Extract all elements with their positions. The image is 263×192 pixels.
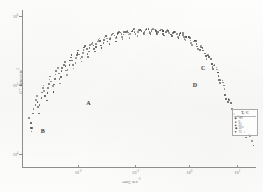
data-point xyxy=(103,42,105,44)
data-point xyxy=(44,95,46,97)
data-point xyxy=(75,57,77,59)
data-point xyxy=(253,145,255,147)
data-point xyxy=(171,35,173,37)
data-point xyxy=(47,92,49,94)
data-point xyxy=(61,67,63,69)
data-point xyxy=(72,64,74,66)
x-tick-mark xyxy=(78,165,79,168)
data-point xyxy=(137,31,139,33)
y-tick-label: 104 xyxy=(4,152,18,158)
data-point xyxy=(50,81,52,83)
legend-title: T, °C xyxy=(234,111,256,117)
data-point xyxy=(37,106,39,108)
legend-rows: ■-20●0▲25◆50▼75 xyxy=(234,117,256,133)
data-point xyxy=(163,35,165,37)
branch-label-d: D xyxy=(193,82,197,88)
data-point xyxy=(109,38,111,40)
data-point xyxy=(53,91,55,93)
data-point xyxy=(41,92,43,94)
data-point xyxy=(133,28,135,30)
data-point xyxy=(135,33,137,35)
data-point xyxy=(65,65,67,67)
data-point xyxy=(115,41,117,43)
y-tick-mark xyxy=(19,154,22,155)
data-point xyxy=(212,68,214,70)
data-point xyxy=(195,40,197,42)
data-point xyxy=(129,33,131,35)
data-point xyxy=(216,69,218,71)
data-point xyxy=(39,104,41,106)
data-point xyxy=(157,31,159,33)
data-point xyxy=(54,78,56,80)
data-point xyxy=(87,56,89,58)
data-point xyxy=(42,87,44,89)
data-point xyxy=(100,45,102,47)
data-point xyxy=(191,44,193,46)
data-point xyxy=(83,47,85,49)
data-point xyxy=(224,94,226,96)
data-point xyxy=(214,64,216,66)
data-point xyxy=(162,30,164,32)
legend-label: 75 xyxy=(238,131,241,134)
data-point xyxy=(82,52,84,54)
data-point xyxy=(71,54,73,56)
data-point xyxy=(81,56,83,58)
data-point xyxy=(185,39,187,41)
y-tick-mark xyxy=(19,16,22,17)
data-point xyxy=(47,87,49,89)
data-point xyxy=(204,53,206,55)
data-point xyxy=(219,82,221,84)
y-axis-title-main: G″ xyxy=(18,89,23,94)
y-tick-label: 106 xyxy=(4,14,18,20)
plot-area: ABCD xyxy=(22,8,258,168)
data-point xyxy=(31,131,33,133)
data-point xyxy=(95,46,97,48)
data-point xyxy=(43,90,45,92)
data-point xyxy=(60,76,62,78)
x-tick-mark xyxy=(189,165,190,168)
data-point xyxy=(116,36,118,38)
data-point xyxy=(222,82,224,84)
data-point xyxy=(61,70,63,72)
data-point xyxy=(225,98,227,100)
branch-label-c: C xyxy=(201,65,205,71)
data-point xyxy=(41,97,43,99)
x-tick-label: 10-1 xyxy=(132,170,139,176)
data-point xyxy=(143,33,145,35)
data-point xyxy=(251,140,253,142)
data-point xyxy=(48,83,50,85)
data-point xyxy=(59,78,61,80)
data-point xyxy=(137,35,139,37)
data-point xyxy=(87,53,89,55)
data-point xyxy=(58,73,60,75)
data-point xyxy=(148,28,150,30)
data-point xyxy=(123,34,125,36)
x-tick-label: 100 xyxy=(186,170,192,176)
data-point xyxy=(49,76,51,78)
data-point xyxy=(189,37,191,39)
data-point xyxy=(81,61,83,63)
data-point xyxy=(178,37,180,39)
data-point xyxy=(150,34,152,36)
data-point xyxy=(73,68,75,70)
data-point xyxy=(121,33,123,35)
x-tick-label: 101 xyxy=(234,170,240,176)
data-point xyxy=(93,48,95,50)
data-point xyxy=(83,49,85,51)
data-point xyxy=(94,51,96,53)
data-point xyxy=(105,35,107,37)
data-point xyxy=(224,88,226,90)
x-axis-title: ωαT, sec-1 xyxy=(122,178,140,186)
data-point xyxy=(230,102,232,104)
data-point xyxy=(101,47,103,49)
data-point xyxy=(103,39,105,41)
x-tick-label: 10-2 xyxy=(75,170,82,176)
data-point xyxy=(57,67,59,69)
data-point xyxy=(28,117,30,119)
x-tick-mark xyxy=(135,165,136,168)
legend-marker-icon: ▼ xyxy=(234,131,237,134)
y-axis-title-units-exp: 2 xyxy=(16,68,20,70)
legend-item: ▼75 xyxy=(234,131,256,134)
data-point xyxy=(55,70,57,72)
data-point xyxy=(196,43,198,45)
